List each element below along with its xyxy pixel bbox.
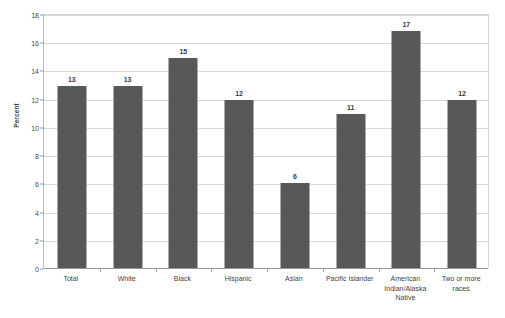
- y-tick-mark: [40, 269, 44, 270]
- y-tick-label: 10: [31, 124, 39, 131]
- x-tick-mark: [434, 268, 435, 272]
- bar[interactable]: [392, 31, 421, 268]
- bar[interactable]: [448, 100, 477, 268]
- bar-group[interactable]: 13: [44, 15, 100, 268]
- y-tick-label: 8: [35, 153, 39, 160]
- bar-value-label: 6: [293, 173, 297, 180]
- plot-area: 024681012141618 131315126111712: [43, 14, 489, 268]
- x-category-label: Hispanic: [210, 274, 266, 284]
- bar-group[interactable]: 17: [379, 15, 435, 268]
- bar-group[interactable]: 6: [267, 15, 323, 268]
- bar-group[interactable]: 13: [100, 15, 156, 268]
- x-category-label-line: races: [433, 284, 489, 294]
- x-category-label: White: [99, 274, 155, 284]
- x-axis-category-labels: TotalWhiteBlackHispanicAsianPacific Isla…: [43, 274, 489, 316]
- x-category-label: AmericanIndian/AlaskaNative: [378, 274, 434, 303]
- x-category-label: Total: [43, 274, 99, 284]
- x-category-label: Asian: [266, 274, 322, 284]
- y-tick-label: 0: [35, 266, 39, 273]
- bar[interactable]: [113, 86, 142, 268]
- x-tick-mark: [267, 268, 268, 272]
- x-category-label-line: Native: [378, 293, 434, 303]
- bar[interactable]: [280, 183, 309, 268]
- y-tick-label: 12: [31, 96, 39, 103]
- y-tick-label: 18: [31, 12, 39, 19]
- y-tick-label: 2: [35, 237, 39, 244]
- x-tick-mark: [379, 268, 380, 272]
- x-category-label-line: Asian: [266, 274, 322, 284]
- x-tick-mark: [323, 268, 324, 272]
- bar[interactable]: [225, 100, 254, 268]
- bar-value-label: 13: [68, 76, 76, 83]
- bars-layer: 131315126111712: [44, 15, 488, 268]
- bar-group[interactable]: 12: [211, 15, 267, 268]
- bar-value-label: 15: [179, 48, 187, 55]
- axis-baseline: [44, 268, 488, 269]
- y-tick-label: 6: [35, 181, 39, 188]
- x-category-label-line: Indian/Alaska: [378, 284, 434, 294]
- x-category-label-line: Two or more: [433, 274, 489, 284]
- x-category-label: Two or moreraces: [433, 274, 489, 293]
- x-category-label-line: Black: [155, 274, 211, 284]
- bar[interactable]: [57, 86, 86, 268]
- x-category-label: Black: [155, 274, 211, 284]
- x-category-label-line: Total: [43, 274, 99, 284]
- bar-group[interactable]: 12: [434, 15, 490, 268]
- bar-group[interactable]: 15: [156, 15, 212, 268]
- x-category-label-line: Pacific Islander: [322, 274, 378, 284]
- bar-chart: Percent 024681012141618 131315126111712 …: [0, 0, 505, 318]
- bar-value-label: 11: [347, 104, 354, 111]
- x-category-label: Pacific Islander: [322, 274, 378, 284]
- bar[interactable]: [169, 58, 198, 268]
- y-tick-label: 14: [31, 68, 39, 75]
- bar-value-label: 17: [402, 21, 410, 28]
- y-axis-title: Percent: [13, 76, 20, 156]
- x-tick-mark: [100, 268, 101, 272]
- x-category-label-line: White: [99, 274, 155, 284]
- bar-group[interactable]: 11: [323, 15, 379, 268]
- x-tick-mark: [156, 268, 157, 272]
- y-tick-label: 4: [35, 209, 39, 216]
- bar-value-label: 13: [124, 76, 132, 83]
- bar-value-label: 12: [458, 90, 466, 97]
- x-category-label-line: American: [378, 274, 434, 284]
- bar-value-label: 12: [235, 90, 243, 97]
- y-tick-label: 16: [31, 40, 39, 47]
- x-category-label-line: Hispanic: [210, 274, 266, 284]
- bar[interactable]: [336, 114, 365, 268]
- x-tick-mark: [211, 268, 212, 272]
